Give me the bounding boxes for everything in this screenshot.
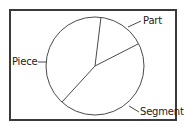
part-leader-line <box>128 21 141 27</box>
label-part: Part <box>143 16 162 26</box>
label-segment: Segment <box>140 107 184 117</box>
label-piece: Piece <box>12 57 37 67</box>
segment-leader-line <box>129 106 139 112</box>
